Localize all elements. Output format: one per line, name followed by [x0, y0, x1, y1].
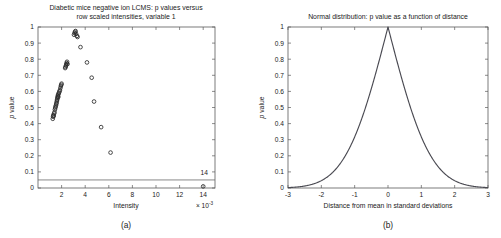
panel-a-scatter: Diabetic mice negative ion LCMS: p value…: [0, 0, 250, 238]
panel-b-ytick-label: 1: [280, 23, 284, 30]
panel-a-data-point: [99, 125, 103, 129]
panel-b-xlabel: Distance from mean in standard deviation…: [324, 202, 453, 209]
panel-a-ylabel: p value: [8, 96, 16, 119]
panel-a-data-point: [109, 151, 113, 155]
panel-b-xtick-label: -1: [352, 191, 358, 198]
panel-b-xtick-label: 3: [486, 191, 490, 198]
panel-b-ytick-label: 0.3: [275, 136, 284, 143]
panel-a-xtick-label: 4: [83, 191, 87, 198]
panel-b-xtick-label: 2: [453, 191, 457, 198]
panel-b-ytick-label: 0: [280, 184, 284, 191]
panel-a-xtick-label: 10: [152, 191, 160, 198]
panel-b-xtick-label: -2: [318, 191, 324, 198]
panel-a-ytick-label: 0.7: [25, 72, 34, 79]
panel-a-xtick-label: 14: [200, 191, 208, 198]
panel-b-xtick-label: -3: [285, 191, 291, 198]
panel-a-ytick-label: 0.5: [25, 104, 34, 111]
panel-a-xtick-label: 8: [131, 191, 135, 198]
panel-b-ytick-label: 0.5: [275, 104, 284, 111]
panel-a-ytick-label: 0: [30, 184, 34, 191]
panel-b-caption: (b): [383, 220, 393, 230]
panel-a-ytick-label: 0.9: [25, 40, 34, 47]
panel-a-caption: (a): [121, 220, 131, 230]
panel-a-xlabel: Intensity: [113, 202, 139, 210]
panel-b-ytick-label: 0.8: [275, 56, 284, 63]
panel-b-xtick-label: 0: [386, 191, 390, 198]
panel-b-ylabel: p value: [258, 96, 266, 119]
panel-b-ytick-label: 0.9: [275, 40, 284, 47]
panel-a-svg: Diabetic mice negative ion LCMS: p value…: [0, 0, 250, 238]
panel-a-ytick-label: 0.3: [25, 136, 34, 143]
panel-b-ytick-label: 0.2: [275, 152, 284, 159]
panel-b-svg: Normal distribution: p value as a functi…: [250, 0, 501, 238]
panel-a-xtick-label: 12: [176, 191, 184, 198]
panel-b-ytick-label: 0.1: [275, 168, 284, 175]
panel-b-ytick-label: 0.7: [275, 72, 284, 79]
panel-b-ytick-label: 0.6: [275, 88, 284, 95]
panel-b-line: Normal distribution: p value as a functi…: [250, 0, 501, 238]
panel-a-data-point: [85, 61, 89, 65]
panel-b-ytick-label: 0.4: [275, 120, 284, 127]
panel-a-ytick-label: 0.6: [25, 88, 34, 95]
panel-a-point-annotation: 14: [201, 169, 209, 176]
panel-a-ytick-label: 0.1: [25, 168, 34, 175]
panel-a-title-line2: row scaled intensities, variable 1: [76, 13, 175, 20]
panel-a-xtick-label: 2: [60, 191, 64, 198]
panel-b-title: Normal distribution: p value as a functi…: [308, 13, 468, 21]
panel-a-data-point: [90, 76, 94, 80]
panel-a-data-point: [79, 45, 83, 49]
panel-a-data-point: [92, 100, 96, 104]
panel-b-curve: [288, 27, 488, 188]
panel-a-ytick-label: 1: [30, 23, 34, 30]
panel-a-plot-frame: [38, 27, 215, 188]
panel-b-xtick-label: 1: [419, 191, 423, 198]
panel-a-ytick-label: 0.4: [25, 120, 34, 127]
panel-a-ytick-label: 0.2: [25, 152, 34, 159]
panel-a-x-multiplier: × 10-3: [196, 201, 214, 209]
figure-container: Diabetic mice negative ion LCMS: p value…: [0, 0, 501, 238]
panel-a-xtick-label: 6: [107, 191, 111, 198]
panel-a-ytick-label: 0.8: [25, 56, 34, 63]
panel-a-title-line1: Diabetic mice negative ion LCMS: p value…: [49, 4, 203, 12]
panel-b-plot-frame: [288, 27, 488, 188]
